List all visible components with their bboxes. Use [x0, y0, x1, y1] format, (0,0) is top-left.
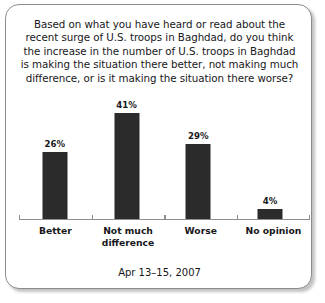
x-axis-category-labels: Better Not much difference Worse No opin… — [19, 225, 310, 265]
axis-tick — [92, 215, 93, 219]
axis-tick — [19, 215, 20, 219]
bar-value-label: 26% — [45, 139, 66, 149]
axis-tick — [164, 215, 165, 219]
category-label-no-opinion: No opinion — [237, 225, 310, 237]
category-label-not-much-difference: Not much difference — [92, 225, 165, 248]
bar-value-label: 4% — [263, 196, 278, 206]
bar — [42, 152, 67, 219]
x-axis-line — [19, 219, 310, 220]
bar-group-no-opinion: 4% — [234, 97, 306, 219]
category-label-line: Worse — [164, 225, 237, 237]
category-label-worse: Worse — [164, 225, 237, 237]
bar-value-label: 29% — [188, 131, 209, 141]
bar-group-worse: 29% — [163, 97, 235, 219]
category-label-line: No opinion — [237, 225, 310, 237]
axis-tick — [309, 215, 310, 219]
chart-question-title: Based on what you have heard or read abo… — [18, 18, 301, 85]
bar — [258, 209, 283, 219]
bar — [186, 144, 211, 219]
category-label-better: Better — [19, 225, 92, 237]
category-label-line: Better — [19, 225, 92, 237]
chart-date-footer: Apr 13–15, 2007 — [18, 267, 301, 278]
bar — [114, 113, 139, 219]
poll-chart-card: Based on what you have heard or read abo… — [5, 4, 312, 289]
axis-tick — [237, 215, 238, 219]
bar-group-not-much-difference: 41% — [91, 97, 163, 219]
bar-group-better: 26% — [19, 97, 91, 219]
category-label-line: difference — [92, 237, 165, 249]
category-label-line: Not much — [92, 225, 165, 237]
chart-plot-area: 26% 41% 29% 4% — [19, 97, 306, 219]
bar-value-label: 41% — [116, 100, 137, 110]
